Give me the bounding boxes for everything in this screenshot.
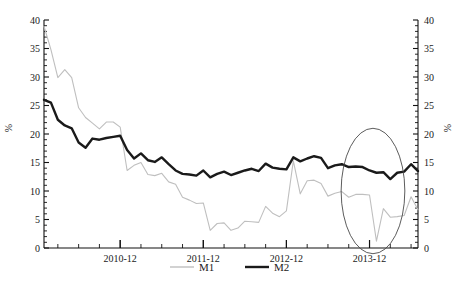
y-tick-label: 15: [424, 157, 434, 168]
dual-axis-line-chart: 0510152025303540 0510152025303540 2010-1…: [0, 0, 460, 281]
left-axis-title: %: [3, 124, 14, 132]
y-tick-label: 25: [30, 100, 40, 111]
series-line-m2: [44, 100, 418, 179]
bottom-axis: [44, 240, 418, 248]
y-tick-label: 10: [30, 186, 40, 197]
right-axis: 0510152025303540: [413, 15, 434, 254]
y-tick-label: 35: [424, 43, 434, 54]
y-tick-label: 20: [30, 129, 40, 140]
highlight-ellipse-icon: [341, 128, 405, 253]
y-tick-label: 0: [424, 243, 429, 254]
y-tick-label: 25: [424, 100, 434, 111]
y-tick-label: 10: [424, 186, 434, 197]
y-tick-label: 40: [30, 15, 40, 26]
x-tick-label: 2013-12: [353, 253, 386, 264]
x-tick-label: 2010-12: [104, 253, 137, 264]
legend-label-m1: M1: [199, 261, 214, 273]
y-tick-label: 5: [424, 214, 429, 225]
x-tick-labels: 2010-122011-122012-122013-12: [104, 253, 387, 264]
y-tick-label: 40: [424, 15, 434, 26]
y-tick-label: 35: [30, 43, 40, 54]
legend-label-m2: M2: [274, 261, 289, 273]
y-tick-label: 30: [424, 72, 434, 83]
y-tick-label: 15: [30, 157, 40, 168]
series-line-m1: [44, 26, 418, 241]
y-tick-label: 20: [424, 129, 434, 140]
y-tick-label: 5: [35, 214, 40, 225]
right-axis-title: %: [442, 124, 453, 132]
chart-container: 0510152025303540 0510152025303540 2010-1…: [0, 0, 460, 281]
y-tick-label: 0: [35, 243, 40, 254]
chart-annotations: [341, 128, 405, 253]
series-lines: [44, 26, 418, 241]
left-axis: 0510152025303540: [30, 15, 49, 254]
y-tick-label: 30: [30, 72, 40, 83]
